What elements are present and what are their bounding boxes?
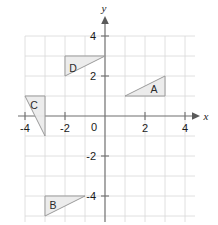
y-tick-label-neg2: -2 (86, 150, 96, 162)
y-axis-arrow (101, 16, 109, 24)
y-tick-label-neg4: -4 (86, 190, 96, 202)
coordinate-plane-figure: A B C D -4 -2 2 4 4 2 -2 -4 0 x y (0, 0, 218, 225)
y-axis-label: y (101, 2, 107, 14)
y-tick-label-pos4: 4 (90, 30, 96, 42)
triangle-d-label: D (69, 62, 77, 74)
x-tick-label-pos2: 2 (142, 122, 148, 134)
x-tick-label-neg2: -2 (60, 122, 70, 134)
horizontal-grid-lines (25, 36, 195, 216)
x-tick-label-pos4: 4 (182, 122, 188, 134)
triangle-a-label: A (150, 83, 157, 95)
origin-label: 0 (91, 121, 97, 133)
x-tick-label-neg4: -4 (20, 122, 30, 134)
triangle-c-label: C (30, 99, 38, 111)
triangle-b-label: B (49, 199, 56, 211)
y-tick-label-pos2: 2 (90, 70, 96, 82)
x-axis-label: x (203, 110, 209, 122)
coordinate-plane-svg: A B C D -4 -2 2 4 4 2 -2 -4 0 x y (0, 0, 218, 225)
x-axis-arrow (192, 112, 200, 120)
y-axis (101, 16, 109, 222)
